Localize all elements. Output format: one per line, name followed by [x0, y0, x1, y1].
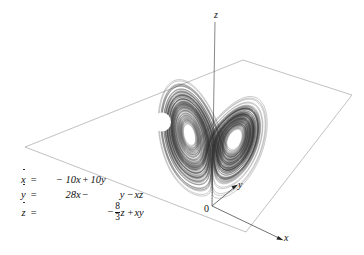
- equation-x-term2: 10y: [90, 172, 126, 187]
- beta-fraction: 83: [115, 202, 120, 223]
- equation-z-beta: −83z: [90, 202, 126, 223]
- equation-z-op1: [82, 202, 90, 223]
- equation-z-blank: [40, 202, 82, 223]
- equation-z-minus: −: [107, 206, 115, 217]
- equation-row-x: x = − 10x + 10y: [20, 172, 162, 187]
- beta-variable: z: [120, 207, 124, 218]
- equation-z-xy: xy: [134, 207, 143, 218]
- lorenz-attractor-figure: z y x 0 x = − 10x + 10y y = 28x − y −xz: [0, 0, 364, 255]
- equals-sign-x: =: [28, 172, 40, 187]
- z-axis-label: z: [214, 10, 218, 20]
- equation-y-term3: −xz: [126, 187, 162, 202]
- equation-y-op1: −: [82, 187, 90, 202]
- equation-y-term1: 28x: [40, 187, 82, 202]
- beta-numerator: 8: [115, 202, 120, 212]
- y-axis: [212, 186, 236, 206]
- equation-y-term2: y: [90, 187, 126, 202]
- equation-row-z: z = −83z +xy: [20, 202, 162, 223]
- y-axis-label: y: [238, 180, 242, 190]
- equals-sign-y: =: [28, 187, 40, 202]
- equation-row-y: y = 28x − y −xz: [20, 187, 162, 202]
- beta-denominator: 3: [115, 213, 120, 223]
- left-lobe-core-hole: [153, 113, 171, 132]
- y-dot-symbol: y: [21, 187, 26, 202]
- equals-sign-z: =: [28, 202, 40, 223]
- equation-x-op: +: [82, 172, 90, 187]
- equation-lhs-z: z: [20, 202, 28, 223]
- z-dot-symbol: z: [22, 205, 26, 220]
- equation-z-term3: +xy: [126, 202, 162, 223]
- equation-lhs-y: y: [20, 187, 28, 202]
- origin-label: 0: [204, 204, 209, 214]
- x-axis-label: x: [284, 233, 288, 243]
- x-axis-arrowhead: [276, 236, 283, 240]
- equation-x-term1: − 10x: [40, 172, 82, 187]
- lorenz-equations: x = − 10x + 10y y = 28x − y −xz z =: [20, 172, 162, 223]
- equation-x-term3: [126, 172, 162, 187]
- equation-y-xz: xz: [134, 189, 143, 200]
- x-axis: [212, 206, 281, 239]
